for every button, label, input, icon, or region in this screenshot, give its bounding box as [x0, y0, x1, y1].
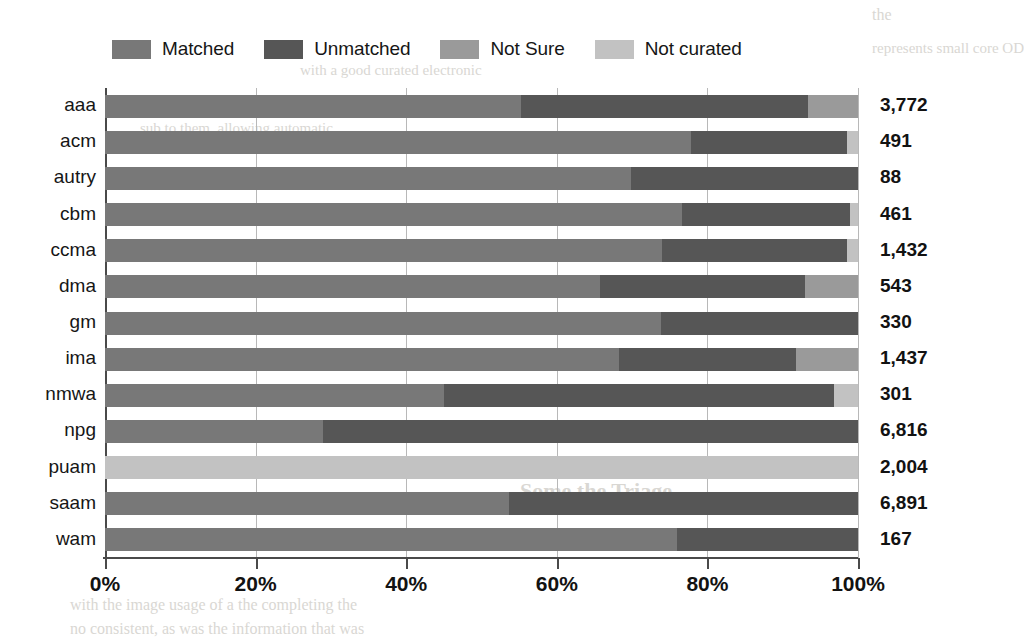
bar-segment-unmatched[interactable]: [619, 348, 797, 371]
bar-segment-unmatched[interactable]: [691, 131, 847, 154]
bar-segment-unmatched[interactable]: [682, 203, 851, 226]
bar-segment-unmatched[interactable]: [600, 275, 805, 298]
x-tick-label: 100%: [831, 572, 885, 596]
legend-item-matched[interactable]: Matched: [112, 38, 234, 60]
bar-row[interactable]: [105, 167, 858, 190]
bar-segment-unmatched[interactable]: [631, 167, 858, 190]
bar-segment-matched[interactable]: [105, 528, 677, 551]
bar-segment-matched[interactable]: [105, 420, 323, 443]
y-axis-label-wam: wam: [56, 528, 96, 550]
bar-segment-unmatched[interactable]: [323, 420, 858, 443]
x-tick-mark: [557, 558, 559, 569]
y-axis-label-saam: saam: [50, 492, 96, 514]
x-tick-label: 20%: [235, 572, 277, 596]
x-tick-label: 80%: [686, 572, 728, 596]
bar-segment-matched[interactable]: [105, 131, 691, 154]
y-axis-label-acm: acm: [60, 130, 96, 152]
bar-total-label: 461: [880, 203, 912, 225]
legend-swatch-icon: [264, 40, 303, 59]
bar-row[interactable]: [105, 239, 858, 262]
bar-segment-unmatched[interactable]: [677, 528, 858, 551]
legend-swatch-icon: [595, 40, 634, 59]
x-tick-label: 60%: [536, 572, 578, 596]
x-tick-mark: [406, 558, 408, 569]
bar-segment-matched[interactable]: [105, 167, 631, 190]
bar-segment-matched[interactable]: [105, 492, 509, 515]
bar-row[interactable]: [105, 95, 858, 118]
x-tick-label: 0%: [90, 572, 120, 596]
bar-segment-unmatched[interactable]: [444, 384, 834, 407]
bar-segment-not-curated[interactable]: [847, 239, 858, 262]
bar-row[interactable]: [105, 456, 858, 479]
bar-row[interactable]: [105, 312, 858, 335]
bar-segment-not-curated[interactable]: [850, 203, 858, 226]
bar-row[interactable]: [105, 348, 858, 371]
bar-segment-matched[interactable]: [105, 348, 619, 371]
legend-swatch-icon: [440, 40, 479, 59]
bar-segment-not-curated[interactable]: [847, 131, 858, 154]
plot-area: [105, 88, 858, 558]
legend-label: Matched: [162, 38, 234, 60]
y-axis-labels: aaaacmautrycbmccmadmagmimanmwanpgpuamsaa…: [0, 88, 96, 558]
bar-segment-unmatched[interactable]: [661, 312, 858, 335]
x-tick-mark: [707, 558, 709, 569]
bar-segment-matched[interactable]: [105, 95, 521, 118]
bar-total-label: 167: [880, 528, 912, 550]
bar-total-label: 491: [880, 130, 912, 152]
bar-total-label: 3,772: [880, 94, 928, 116]
legend-item-unmatched[interactable]: Unmatched: [264, 38, 410, 60]
y-axis-label-dma: dma: [59, 275, 96, 297]
x-tick-mark: [256, 558, 258, 569]
bar-segment-not-sure[interactable]: [796, 348, 858, 371]
bar-segment-unmatched[interactable]: [509, 492, 858, 515]
y-axis-label-nmwa: nmwa: [45, 383, 96, 405]
bar-total-label: 6,891: [880, 492, 928, 514]
x-tick-label: 40%: [385, 572, 427, 596]
legend-item-not-curated[interactable]: Not curated: [595, 38, 742, 60]
y-axis-label-cbm: cbm: [60, 203, 96, 225]
legend-label: Not Sure: [490, 38, 564, 60]
x-axis-ticks: 0%20%40%60%80%100%: [105, 558, 858, 604]
bar-segment-matched[interactable]: [105, 239, 662, 262]
bar-segment-not-curated[interactable]: [834, 384, 858, 407]
bar-total-label: 2,004: [880, 456, 928, 478]
legend-item-not-sure[interactable]: Not Sure: [440, 38, 564, 60]
legend-swatch-icon: [112, 40, 151, 59]
y-axis-label-autry: autry: [54, 166, 96, 188]
bar-segment-matched[interactable]: [105, 275, 600, 298]
chart-legend: MatchedUnmatchedNot SureNot curated: [112, 36, 772, 62]
bar-total-label: 88: [880, 166, 901, 188]
bar-row[interactable]: [105, 384, 858, 407]
bar-total-label: 330: [880, 311, 912, 333]
bar-segment-matched[interactable]: [105, 384, 444, 407]
bar-total-label: 6,816: [880, 419, 928, 441]
bar-segment-not-curated[interactable]: [105, 456, 858, 479]
bar-rows: [105, 88, 858, 558]
legend-label: Not curated: [645, 38, 742, 60]
bar-segment-not-sure[interactable]: [805, 275, 858, 298]
bar-segment-matched[interactable]: [105, 203, 682, 226]
y-axis-label-gm: gm: [70, 311, 96, 333]
bar-total-label: 301: [880, 383, 912, 405]
x-tick-mark: [858, 558, 860, 569]
bar-total-labels: 3,772491884611,4325433301,4373016,8162,0…: [880, 88, 972, 558]
gridline: [858, 88, 859, 558]
y-axis-label-ima: ima: [65, 347, 96, 369]
bar-row[interactable]: [105, 528, 858, 551]
bar-row[interactable]: [105, 203, 858, 226]
bar-total-label: 543: [880, 275, 912, 297]
bar-segment-unmatched[interactable]: [662, 239, 846, 262]
x-tick-mark: [105, 558, 107, 569]
bar-row[interactable]: [105, 492, 858, 515]
y-axis-label-puam: puam: [48, 456, 96, 478]
bar-segment-unmatched[interactable]: [521, 95, 809, 118]
bar-row[interactable]: [105, 275, 858, 298]
bar-total-label: 1,432: [880, 239, 928, 261]
bar-segment-not-sure[interactable]: [808, 95, 858, 118]
bar-row[interactable]: [105, 420, 858, 443]
y-axis-label-ccma: ccma: [51, 239, 96, 261]
bar-row[interactable]: [105, 131, 858, 154]
y-axis-label-npg: npg: [64, 419, 96, 441]
bar-segment-matched[interactable]: [105, 312, 661, 335]
